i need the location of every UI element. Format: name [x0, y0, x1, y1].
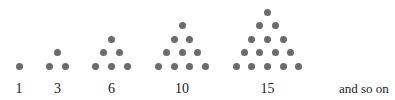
dot [280, 36, 287, 43]
dot [54, 49, 61, 56]
dot [163, 49, 170, 56]
dot [280, 63, 287, 70]
dot [46, 63, 53, 70]
figure-label: 1 [16, 81, 23, 97]
figure-label: 3 [54, 81, 61, 97]
dot [272, 22, 279, 29]
dot [155, 63, 162, 70]
dot [124, 63, 131, 70]
dot [92, 63, 99, 70]
dot [179, 22, 186, 29]
dot [256, 22, 263, 29]
dot [264, 9, 271, 16]
dot [264, 36, 271, 43]
dot [186, 36, 193, 43]
dot [108, 36, 115, 43]
dot [100, 49, 107, 56]
dot [116, 49, 123, 56]
dot [171, 36, 178, 43]
figure-label: 10 [175, 81, 189, 97]
dot [256, 49, 263, 56]
dot [16, 63, 23, 70]
dot [233, 63, 240, 70]
dot [241, 49, 248, 56]
dot [272, 49, 279, 56]
dot [62, 63, 69, 70]
figure-label: 15 [261, 81, 275, 97]
dot [248, 63, 255, 70]
dot [295, 63, 302, 70]
dot [287, 49, 294, 56]
dot [179, 49, 186, 56]
dot [248, 36, 255, 43]
figure-label: 6 [108, 81, 115, 97]
and-so-on-text: and so on [339, 81, 389, 97]
dot [108, 63, 115, 70]
dot [264, 63, 271, 70]
dot [194, 49, 201, 56]
dot [171, 63, 178, 70]
dot [202, 63, 209, 70]
dot [186, 63, 193, 70]
